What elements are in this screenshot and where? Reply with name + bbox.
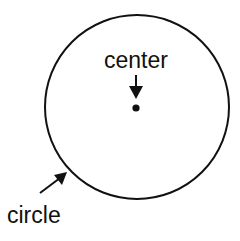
circle-arrow-icon [40, 172, 67, 193]
circle-diagram: center circle [0, 0, 240, 241]
circle-label: circle [7, 202, 61, 228]
center-point [132, 104, 139, 111]
center-label: center [104, 47, 168, 73]
center-arrow-icon [129, 75, 143, 99]
